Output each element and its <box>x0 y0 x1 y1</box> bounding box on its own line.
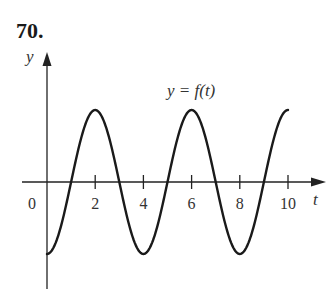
x-axis-arrow-icon <box>311 178 326 187</box>
x-tick-label: 6 <box>188 195 196 212</box>
x-axis-label: t <box>313 190 319 209</box>
x-tick-label: 10 <box>280 195 296 212</box>
origin-label: 0 <box>28 195 36 212</box>
y-axis-arrow-icon <box>43 52 52 66</box>
curve-label: y = f(t) <box>165 81 216 100</box>
graph: 246810 y t 0 y = f(t) <box>0 0 335 290</box>
x-tick-label: 2 <box>91 195 99 212</box>
y-axis-label: y <box>24 47 34 66</box>
x-tick-label: 8 <box>236 195 244 212</box>
x-tick-label: 4 <box>139 195 147 212</box>
